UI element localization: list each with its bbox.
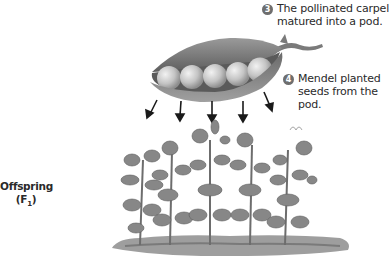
step-3-line-1: The pollinated carpel bbox=[277, 2, 389, 15]
step-number-badge: 3 bbox=[262, 4, 273, 15]
pea-plants bbox=[121, 120, 317, 245]
generation-label: (F1) bbox=[0, 193, 52, 211]
soil bbox=[112, 235, 349, 256]
step-3-line-2: matured into a pod. bbox=[277, 15, 389, 28]
step-4-line-1: Mendel planted bbox=[298, 72, 381, 85]
offspring-label-title: Offspring bbox=[0, 180, 52, 193]
step-number-badge: 4 bbox=[283, 74, 294, 85]
step-4-line-2: seeds from the bbox=[298, 85, 381, 98]
step-4-line-3: pod. bbox=[298, 98, 381, 111]
offspring-label: Offspring (F1) bbox=[0, 180, 52, 211]
